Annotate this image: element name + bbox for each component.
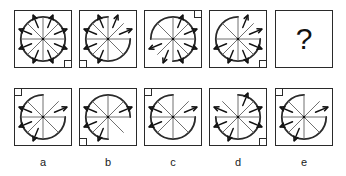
arrow-icon	[315, 107, 327, 112]
option-a[interactable]	[14, 88, 72, 146]
matrix-puzzle: ?abcde	[0, 0, 346, 176]
arrow-icon	[214, 107, 226, 112]
matrix-cell-2	[79, 10, 137, 68]
corner-square-bottom-right	[64, 60, 72, 68]
arrow-icon	[243, 15, 248, 27]
corner-square-bottom-left	[79, 60, 87, 68]
corner-square-top-left	[14, 88, 22, 96]
option-label-d: d	[209, 156, 267, 168]
option-d[interactable]	[209, 88, 267, 146]
corner-square-top-left	[144, 88, 152, 96]
matrix-cell-4	[209, 10, 267, 68]
hub-dot	[237, 116, 240, 119]
question-mark: ?	[296, 24, 313, 54]
matrix-cell-3	[144, 10, 202, 68]
hub-dot	[107, 116, 110, 119]
arrow-icon	[149, 44, 161, 49]
hub-dot	[42, 116, 45, 119]
corner-square-bottom-right	[259, 60, 267, 68]
option-e[interactable]	[275, 88, 333, 146]
arrow-icon	[113, 15, 118, 27]
corner-square-top-right	[194, 10, 202, 18]
corner-square-bottom-right	[259, 138, 267, 146]
arrow-icon	[249, 29, 261, 34]
matrix-cell-1	[14, 10, 72, 68]
option-b[interactable]	[79, 88, 137, 146]
matrix-cell-5: ?	[275, 10, 333, 68]
arrow-icon	[163, 50, 168, 62]
option-label-e: e	[275, 156, 333, 168]
hub-dot	[237, 38, 240, 41]
option-label-c: c	[144, 156, 202, 168]
hub-dot	[172, 38, 175, 41]
option-label-b: b	[79, 156, 137, 168]
option-label-a: a	[14, 156, 72, 168]
hub-dot	[107, 38, 110, 41]
corner-square-bottom-left	[79, 138, 87, 146]
hub-dot	[42, 38, 45, 41]
arrow-icon	[184, 107, 196, 112]
arrow-icon	[119, 29, 131, 34]
arrow-icon	[54, 107, 66, 112]
hub-dot	[303, 116, 306, 119]
corner-square-top-left	[275, 88, 283, 96]
hub-dot	[172, 116, 175, 119]
option-c[interactable]	[144, 88, 202, 146]
